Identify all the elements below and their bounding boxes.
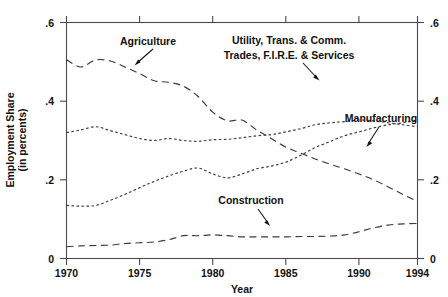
y-axis-title-line2: (in percents) (16, 108, 28, 171)
x-tick-label-1975: 1975 (128, 267, 152, 279)
x-tick-label-1994: 1994 (406, 267, 430, 279)
services-label-line2: Trades, F.I.R.E. & Services (224, 49, 355, 61)
right-y-tick-label-0.4: .4 (430, 95, 439, 107)
employment-share-chart: .6 .4 .2 0 .6 .4 .2 0 1970 1975 1980 198… (0, 0, 448, 297)
x-tick-label-1980: 1980 (201, 267, 225, 279)
x-tick-label-1970: 1970 (55, 267, 79, 279)
manufacturing-label: Manufacturing (345, 112, 417, 124)
x-tick-label-1985: 1985 (274, 267, 298, 279)
y-axis-title-line1: Employment Share (4, 92, 16, 187)
right-y-tick-label-0: 0 (430, 253, 436, 265)
chart-canvas: .6 .4 .2 0 .6 .4 .2 0 1970 1975 1980 198… (0, 0, 448, 297)
y-tick-label-0.6: .6 (45, 17, 54, 29)
y-tick-label-0: 0 (48, 253, 54, 265)
y-tick-label-0.2: .2 (45, 174, 54, 186)
construction-label: Construction (218, 194, 283, 206)
agriculture-label: Agriculture (120, 35, 176, 47)
x-axis-title: Year (231, 283, 253, 295)
x-tick-label-1990: 1990 (347, 267, 371, 279)
y-tick-label-0.4: .4 (45, 95, 54, 107)
chart-background (0, 0, 448, 297)
right-y-tick-label-0.2: .2 (430, 174, 439, 186)
right-y-tick-label-0.6: .6 (430, 17, 439, 29)
services-label-line1: Utility, Trans. & Comm. (232, 34, 346, 46)
